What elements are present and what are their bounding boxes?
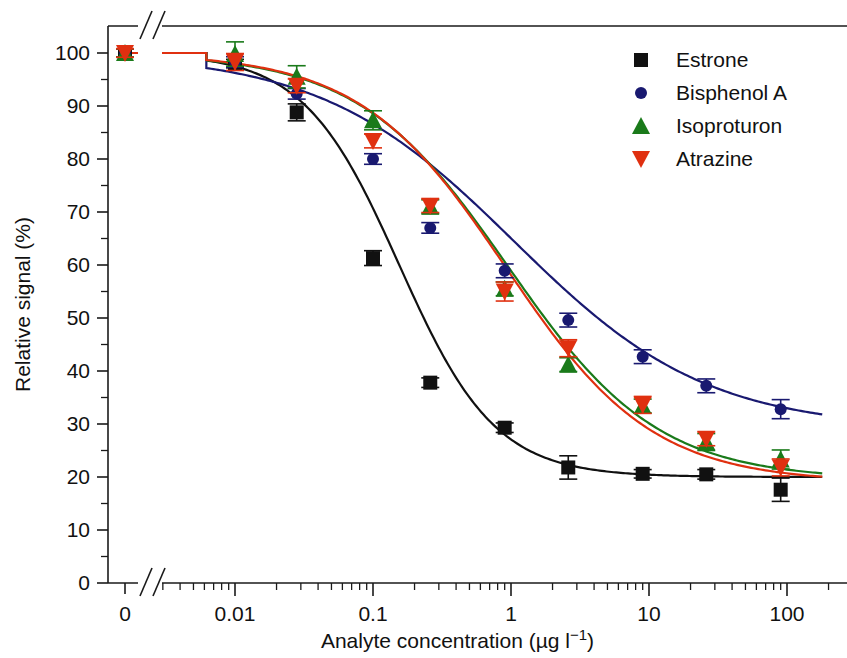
y-tick-label: 80 bbox=[67, 147, 90, 170]
data-point bbox=[637, 351, 649, 363]
legend-marker bbox=[632, 117, 650, 134]
fit-curve-bisphenol-a bbox=[125, 53, 822, 414]
marker-circle bbox=[367, 153, 379, 165]
x-tick-label: 100 bbox=[769, 602, 804, 625]
y-tick-label: 20 bbox=[67, 465, 90, 488]
series-points-isoproturon bbox=[116, 42, 790, 469]
marker-square bbox=[498, 421, 512, 435]
data-point bbox=[367, 153, 379, 165]
data-point bbox=[424, 222, 436, 234]
data-point bbox=[290, 105, 304, 119]
legend-item-estrone: Estrone bbox=[634, 48, 748, 71]
y-tick-label: 50 bbox=[67, 306, 90, 329]
marker-square bbox=[423, 376, 437, 390]
chart-legend: EstroneBisphenol AIsoproturonAtrazine bbox=[632, 48, 787, 170]
data-point bbox=[499, 265, 511, 277]
legend-item-isoproturon: Isoproturon bbox=[632, 114, 782, 137]
marker-triangle-down bbox=[632, 151, 650, 168]
marker-circle bbox=[562, 314, 574, 326]
data-point bbox=[561, 460, 575, 474]
data-point bbox=[562, 314, 574, 326]
x-tick-label: 10 bbox=[637, 602, 660, 625]
data-point bbox=[423, 376, 437, 390]
marker-circle bbox=[635, 87, 647, 99]
marker-circle bbox=[775, 403, 787, 415]
y-axis-title: Relative signal (%) bbox=[11, 217, 34, 392]
x-tick-label: 0 bbox=[119, 602, 131, 625]
legend-marker bbox=[635, 87, 647, 99]
points-layer bbox=[116, 42, 790, 502]
data-point bbox=[700, 380, 712, 392]
legend-item-atrazine: Atrazine bbox=[632, 147, 753, 170]
x-tick-label: 0.01 bbox=[215, 602, 256, 625]
marker-triangle-up bbox=[632, 117, 650, 134]
legend-label: Estrone bbox=[676, 48, 748, 71]
legend-label: Bisphenol A bbox=[676, 81, 787, 104]
data-point bbox=[498, 421, 512, 435]
chart-figure: 010203040506070809010000.010.1110100Anal… bbox=[0, 0, 847, 658]
marker-square bbox=[366, 251, 380, 265]
x-tick-label: 0.1 bbox=[358, 602, 387, 625]
legend-item-bisphenol-a: Bisphenol A bbox=[635, 81, 787, 104]
y-tick-label: 60 bbox=[67, 253, 90, 276]
marker-square bbox=[290, 105, 304, 119]
y-tick-label: 30 bbox=[67, 412, 90, 435]
marker-square bbox=[636, 467, 650, 481]
legend-label: Isoproturon bbox=[676, 114, 782, 137]
legend-marker bbox=[632, 151, 650, 168]
x-axis-title: Analyte concentration (µg l−1) bbox=[321, 626, 594, 652]
marker-circle bbox=[637, 351, 649, 363]
data-point bbox=[775, 403, 787, 415]
marker-square bbox=[774, 483, 788, 497]
y-tick-label: 100 bbox=[55, 41, 90, 64]
data-point bbox=[366, 251, 380, 265]
x-tick-label: 1 bbox=[505, 602, 517, 625]
data-point bbox=[699, 467, 713, 481]
y-tick-label: 0 bbox=[78, 571, 90, 594]
y-tick-label: 10 bbox=[67, 518, 90, 541]
marker-circle bbox=[499, 265, 511, 277]
series-points-atrazine bbox=[116, 45, 790, 476]
marker-square bbox=[699, 467, 713, 481]
legend-label: Atrazine bbox=[676, 147, 753, 170]
marker-square bbox=[634, 53, 648, 67]
legend-marker bbox=[634, 53, 648, 67]
y-tick-label: 40 bbox=[67, 359, 90, 382]
data-point bbox=[636, 467, 650, 481]
data-point bbox=[774, 483, 788, 497]
marker-square bbox=[561, 460, 575, 474]
marker-circle bbox=[424, 222, 436, 234]
marker-circle bbox=[700, 380, 712, 392]
y-tick-label: 70 bbox=[67, 200, 90, 223]
y-tick-label: 90 bbox=[67, 94, 90, 117]
